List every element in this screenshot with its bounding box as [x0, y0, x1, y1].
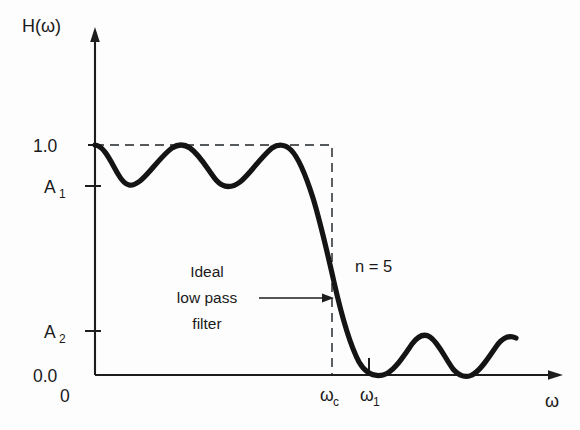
y-tick-label-a1-subscript: 1	[59, 187, 66, 201]
y-tick-label-1.0: 1.0	[33, 136, 58, 156]
filter-response-plot: H(ω) ω 1.0 A 1 A 2 0.0 0 ω c ω 1 n = 5 I…	[0, 0, 580, 430]
frequency-response-curve	[95, 145, 516, 376]
x-axis-title: ω	[545, 391, 559, 411]
y-tick-label-a2: A	[44, 322, 56, 342]
y-axis-arrowhead-icon	[90, 27, 100, 42]
x-tick-label-omega-1: ω	[360, 385, 374, 405]
ideal-filter-annotation	[259, 294, 334, 303]
annotation-line-2: low pass	[177, 289, 238, 306]
curve-n5-path	[95, 145, 516, 376]
x-axis-arrowhead-icon	[548, 370, 563, 380]
filter-response-figure: H(ω) ω 1.0 A 1 A 2 0.0 0 ω c ω 1 n = 5 I…	[0, 0, 580, 430]
y-axis-title: H(ω)	[22, 16, 61, 36]
annotation-line-3: filter	[192, 315, 221, 332]
annotation-line-1: Ideal	[190, 263, 224, 280]
y-axis-ticks	[85, 145, 101, 331]
x-tick-label-omega-c: ω	[320, 385, 334, 405]
curve-order-label: n = 5	[355, 257, 392, 275]
x-tick-label-omega-1-subscript: 1	[373, 395, 380, 409]
y-tick-label-a1: A	[44, 177, 56, 197]
y-tick-label-0.0: 0.0	[33, 366, 58, 386]
axes	[90, 27, 563, 380]
y-tick-label-a2-subscript: 2	[59, 332, 66, 346]
x-tick-label-omega-c-subscript: c	[333, 395, 339, 409]
x-tick-label-origin: 0	[60, 386, 70, 406]
